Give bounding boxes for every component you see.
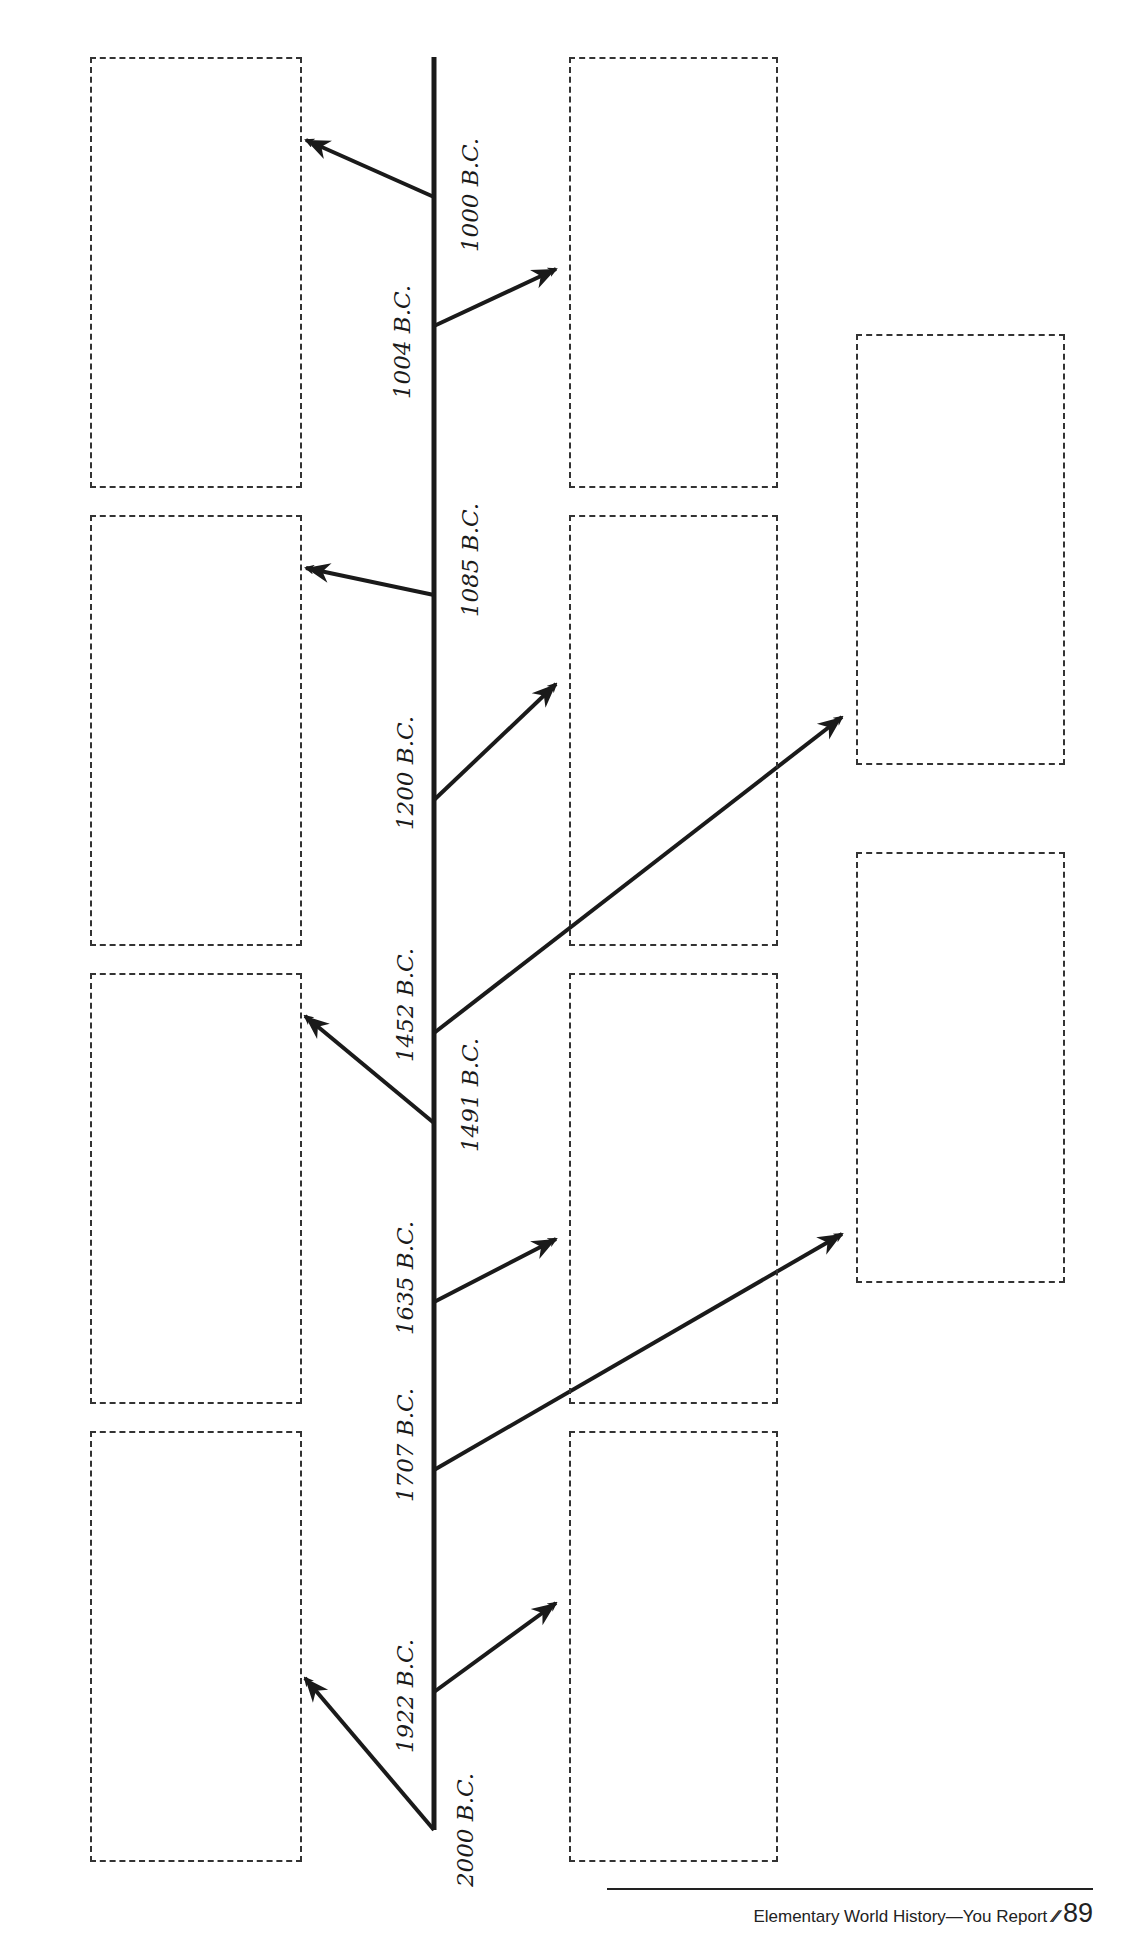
- date-label: 1085 B.C.: [457, 503, 483, 617]
- answer-box-left-3[interactable]: [90, 973, 302, 1404]
- page-number: 89: [1063, 1900, 1093, 1927]
- date-label: 1707 B.C.: [392, 1388, 418, 1502]
- page-footer: Elementary World History—You Report ∕∕ 8…: [607, 1893, 1093, 1927]
- arrowhead-icon: [817, 717, 842, 740]
- answer-box-middle-4[interactable]: [569, 1431, 778, 1862]
- date-label: 2000 B.C.: [452, 1773, 478, 1887]
- event-arrow: [434, 1239, 556, 1302]
- answer-box-left-4[interactable]: [90, 1431, 302, 1862]
- event-arrow: [306, 140, 434, 197]
- footer-slash-marks: ∕∕: [1053, 1907, 1057, 1927]
- date-label: 1922 B.C.: [392, 1639, 418, 1753]
- date-label: 1000 B.C.: [457, 138, 483, 252]
- footer-rule: [607, 1888, 1093, 1890]
- date-label: 1200 B.C.: [392, 716, 418, 830]
- event-arrow: [434, 1603, 556, 1692]
- event-arrow: [434, 684, 556, 800]
- footer-book-title: Elementary World History—You Report: [753, 1907, 1047, 1927]
- arrowhead-icon: [531, 1603, 556, 1625]
- date-label: 1635 B.C.: [392, 1221, 418, 1335]
- date-label: 1452 B.C.: [392, 948, 418, 1062]
- answer-box-middle-1[interactable]: [569, 57, 778, 488]
- answer-box-right-1[interactable]: [856, 334, 1065, 765]
- event-arrow: [306, 568, 434, 595]
- answer-box-left-2[interactable]: [90, 515, 302, 946]
- event-arrow: [434, 269, 556, 326]
- date-label: 1491 B.C.: [457, 1038, 483, 1152]
- timeline-diagram: 1000 B.C.1004 B.C.1085 B.C.1200 B.C.1452…: [0, 0, 1143, 1949]
- answer-box-middle-2[interactable]: [569, 515, 778, 946]
- answer-box-right-2[interactable]: [856, 852, 1065, 1283]
- date-label: 1004 B.C.: [389, 285, 415, 399]
- answer-box-middle-3[interactable]: [569, 973, 778, 1404]
- arrowhead-icon: [816, 1234, 842, 1255]
- answer-box-left-1[interactable]: [90, 57, 302, 488]
